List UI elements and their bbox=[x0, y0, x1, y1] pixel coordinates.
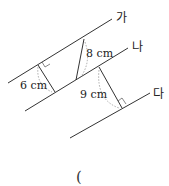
label-da: 다 bbox=[153, 87, 164, 101]
measure-9cm: 9 cm bbox=[80, 88, 108, 101]
measure-6cm: 6 cm bbox=[20, 79, 48, 92]
measure-8cm: 8 cm bbox=[86, 47, 114, 60]
answer-blank: ( bbox=[76, 168, 82, 186]
parallel-lines-diagram: 가 나 다 6 cm 8 cm 9 cm bbox=[0, 0, 169, 186]
label-ga: 가 bbox=[116, 11, 127, 25]
label-na: 나 bbox=[132, 40, 143, 54]
right-angle-mark-1 bbox=[42, 62, 50, 67]
